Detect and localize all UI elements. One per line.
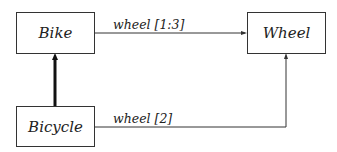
node-bicycle-label: Bicycle: [28, 118, 83, 136]
arrowhead-icon: [52, 53, 58, 60]
node-wheel[interactable]: Wheel: [247, 12, 326, 54]
edge-label-bike-wheel: wheel [1:3]: [113, 19, 184, 32]
edge-bicycle-bike: [52, 53, 58, 106]
edge-label-bicycle-wheel: wheel [2]: [113, 113, 172, 126]
node-bike[interactable]: Bike: [16, 12, 95, 54]
node-bike-label: Bike: [39, 24, 73, 42]
node-wheel-label: Wheel: [263, 24, 311, 42]
node-bicycle[interactable]: Bicycle: [16, 106, 95, 147]
diagram-canvas: Bike Wheel Bicycle wheel [1:3] wheel [2]: [0, 0, 337, 152]
